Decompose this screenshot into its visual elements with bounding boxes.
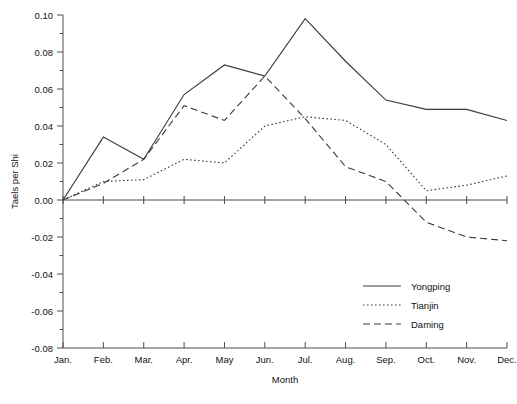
y-tick-label: -0.06	[31, 306, 53, 317]
y-tick-label: -0.08	[31, 343, 53, 354]
x-tick-label: Sep.	[376, 354, 396, 365]
x-axis-title: Month	[272, 374, 298, 385]
x-tick-label: Jun.	[256, 354, 274, 365]
x-tick-label: Jul.	[298, 354, 313, 365]
y-tick-label: 0.00	[35, 195, 54, 206]
x-tick-label: May	[215, 354, 233, 365]
y-tick-label: 0.08	[35, 47, 54, 58]
y-tick-label: -0.04	[31, 269, 53, 280]
legend-label-daming: Daming	[411, 319, 444, 330]
chart-canvas: 0.100.080.060.040.020.00-0.02-0.04-0.06-…	[0, 0, 517, 404]
series-line-yongping	[63, 19, 507, 200]
series-line-daming	[63, 76, 507, 241]
x-tick-label: Oct.	[418, 354, 435, 365]
x-tick-label: Aug.	[336, 354, 356, 365]
x-tick-label: Mar.	[134, 354, 152, 365]
y-tick-label: 0.06	[35, 84, 54, 95]
x-tick-label: Nov.	[457, 354, 476, 365]
line-chart: 0.100.080.060.040.020.00-0.02-0.04-0.06-…	[0, 0, 517, 404]
x-tick-label: Dec.	[497, 354, 517, 365]
y-tick-label: -0.02	[31, 232, 53, 243]
y-tick-label: 0.02	[35, 158, 54, 169]
y-tick-label: 0.10	[35, 10, 54, 21]
y-tick-label: 0.04	[35, 121, 54, 132]
x-tick-label: Apr.	[176, 354, 193, 365]
legend-label-yongping: Yongping	[411, 281, 450, 292]
x-tick-label: Jan.	[54, 354, 72, 365]
x-tick-label: Feb.	[94, 354, 113, 365]
legend-label-tianjin: Tianjin	[411, 300, 439, 311]
axis-frame	[63, 15, 507, 348]
series-line-tianjin	[63, 117, 507, 200]
y-axis-title: Taels per Shi	[9, 154, 20, 209]
